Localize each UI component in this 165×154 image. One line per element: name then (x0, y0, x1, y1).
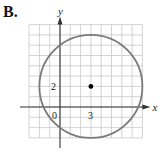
origin-label: 0 (52, 110, 57, 121)
x-axis-arrow-icon (142, 105, 150, 110)
center-point (89, 84, 94, 89)
y-axis-label: y (57, 5, 63, 17)
y-tick-label: 2 (51, 81, 56, 92)
x-tick-label: 3 (88, 110, 93, 121)
x-axis-label: x (151, 101, 157, 113)
y-axis-arrow-icon (58, 17, 63, 25)
coordinate-plane-chart: xy032 (0, 0, 165, 154)
